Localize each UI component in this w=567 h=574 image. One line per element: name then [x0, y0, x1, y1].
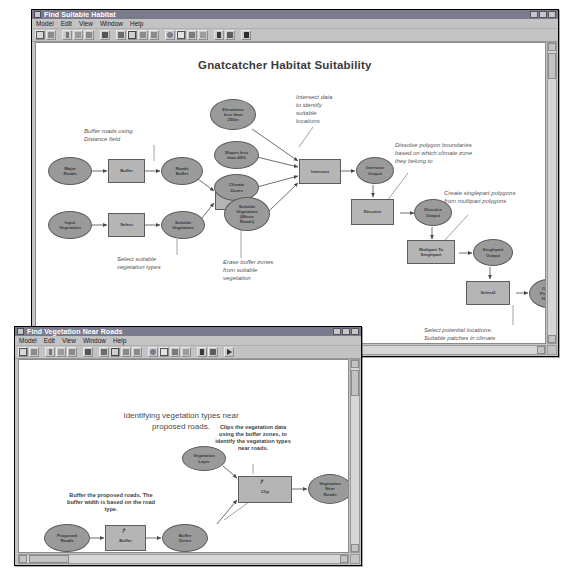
select-icon[interactable]: [214, 30, 224, 40]
node-multipart-to-singlepart-tool[interactable]: Multipart To Singlepart: [407, 240, 455, 264]
horizontal-scroll-thumb[interactable]: [29, 555, 69, 563]
node-elevations-less-than-250m[interactable]: Elevations less than 250m: [210, 99, 256, 130]
delete-icon[interactable]: [83, 347, 93, 357]
window-find-vegetation-near-roads[interactable]: Find Vegetation Near Roads Model Edit Vi…: [14, 326, 362, 566]
node-dissolve-tool[interactable]: Dissolve: [351, 199, 394, 225]
menu-item-window[interactable]: Window: [83, 336, 106, 346]
scroll-down-arrow-icon[interactable]: [351, 544, 359, 552]
zoom-whole-icon[interactable]: [187, 30, 197, 40]
save-icon[interactable]: [18, 347, 28, 357]
node-suitable-vegetation[interactable]: Suitable Vegetation: [161, 211, 205, 239]
menu-item-view[interactable]: View: [62, 336, 76, 346]
window-controls[interactable]: [530, 11, 556, 18]
vertical-scroll-thumb[interactable]: [548, 53, 556, 79]
model-canvas-vegetation[interactable]: Identifying vegetation types near propos…: [18, 359, 349, 553]
vertical-scroll-thumb[interactable]: [351, 370, 359, 396]
window-controls[interactable]: [333, 328, 359, 335]
pan-icon[interactable]: [176, 30, 186, 40]
scroll-up-arrow-icon[interactable]: [351, 360, 359, 368]
scroll-right-arrow-icon[interactable]: [537, 346, 545, 354]
window-menu-icon[interactable]: [17, 328, 24, 335]
menu-item-model[interactable]: Model: [19, 336, 37, 346]
node-singlepart-output[interactable]: Singlepart Output: [473, 239, 513, 266]
toolbar[interactable]: [15, 346, 361, 359]
menu-item-view[interactable]: View: [79, 19, 93, 29]
node-select-tool[interactable]: Select: [108, 213, 145, 237]
zoom-in-icon[interactable]: [148, 347, 158, 357]
copy-icon[interactable]: [56, 347, 66, 357]
maximize-button[interactable]: [342, 328, 350, 335]
node-buffer-tool[interactable]: Buffer: [108, 159, 145, 183]
paste-icon[interactable]: [84, 30, 94, 40]
fixed-zoom-out-icon[interactable]: [149, 30, 159, 40]
print-icon[interactable]: [29, 347, 39, 357]
full-extent-icon[interactable]: [110, 347, 120, 357]
maximize-button[interactable]: [539, 11, 547, 18]
connect-icon[interactable]: [208, 347, 218, 357]
run-icon[interactable]: [224, 347, 234, 357]
vertical-scrollbar[interactable]: [547, 42, 557, 344]
vertical-scrollbar[interactable]: [350, 359, 360, 553]
fixed-zoom-in-icon[interactable]: [121, 347, 131, 357]
close-button[interactable]: [351, 328, 359, 335]
zoom-selected-icon[interactable]: [198, 30, 208, 40]
menu-item-window[interactable]: Window: [100, 19, 123, 29]
run-icon[interactable]: [241, 30, 251, 40]
fixed-zoom-in-icon[interactable]: [138, 30, 148, 40]
node-input-vegetation[interactable]: Input Vegetation: [48, 211, 92, 239]
select-icon[interactable]: [197, 347, 207, 357]
node-suitable-vegetation-minus-roads[interactable]: Suitable Vegetation (Minus Roads): [224, 197, 270, 231]
full-extent-icon[interactable]: [127, 30, 137, 40]
cut-icon[interactable]: [62, 30, 72, 40]
scroll-up-arrow-icon[interactable]: [548, 43, 556, 51]
node-output-potential-habitat[interactable]: Output Potential Habitat: [529, 279, 546, 308]
minimize-button[interactable]: [333, 328, 341, 335]
menu-item-edit[interactable]: Edit: [61, 19, 72, 29]
node-vegetation-near-roads[interactable]: Vegetation Near Roads: [308, 474, 349, 504]
minimize-button[interactable]: [530, 11, 538, 18]
auto-layout-icon[interactable]: [99, 347, 109, 357]
menubar[interactable]: Model Edit View Window Help: [15, 336, 361, 346]
node-select2-tool[interactable]: Select2: [466, 281, 510, 305]
zoom-selected-icon[interactable]: [181, 347, 191, 357]
node-label: Buffer Zones: [179, 533, 192, 543]
cut-icon[interactable]: [45, 347, 55, 357]
menu-item-model[interactable]: Model: [36, 19, 54, 29]
node-roads-buffer[interactable]: Roads Buffer: [161, 157, 203, 185]
pan-icon[interactable]: [159, 347, 169, 357]
node-intersect-tool[interactable]: Intersect: [299, 159, 341, 184]
node-clip-tool[interactable]: Clip: [238, 476, 292, 503]
resize-grip[interactable]: [350, 554, 360, 564]
close-button[interactable]: [548, 11, 556, 18]
auto-layout-icon[interactable]: [116, 30, 126, 40]
save-icon[interactable]: [35, 30, 45, 40]
copy-icon[interactable]: [73, 30, 83, 40]
resize-grip[interactable]: [547, 345, 557, 355]
horizontal-scrollbar[interactable]: [18, 554, 349, 564]
scroll-right-arrow-icon[interactable]: [340, 555, 348, 563]
menubar[interactable]: Model Edit View Window Help: [32, 19, 558, 29]
connect-icon[interactable]: [225, 30, 235, 40]
model-canvas-habitat[interactable]: Gnatcatcher Habitat Suitability Major Ro…: [35, 42, 546, 344]
window-menu-icon[interactable]: [34, 11, 41, 18]
zoom-whole-icon[interactable]: [170, 347, 180, 357]
toolbar[interactable]: [32, 29, 558, 42]
toolbar-separator: [236, 30, 240, 40]
window-find-suitable-habitat[interactable]: Find Suitable Habitat Model Edit View Wi…: [31, 9, 559, 357]
delete-icon[interactable]: [100, 30, 110, 40]
node-label: Roads Buffer: [175, 166, 188, 176]
fixed-zoom-out-icon[interactable]: [132, 347, 142, 357]
zoom-in-icon[interactable]: [165, 30, 175, 40]
scroll-down-arrow-icon[interactable]: [548, 335, 556, 343]
scroll-left-arrow-icon[interactable]: [19, 555, 27, 563]
paste-icon[interactable]: [67, 347, 77, 357]
node-major-roads[interactable]: Major Roads: [48, 157, 92, 185]
print-icon[interactable]: [46, 30, 56, 40]
node-proposed-roads[interactable]: Proposed Roads: [44, 524, 90, 552]
menu-item-help[interactable]: Help: [113, 336, 126, 346]
menu-item-help[interactable]: Help: [130, 19, 143, 29]
menu-item-edit[interactable]: Edit: [44, 336, 55, 346]
node-buffer-zones[interactable]: Buffer Zones: [162, 524, 208, 552]
node-intersect-output[interactable]: Intersect Output: [356, 157, 394, 184]
node-slopes-less-than-40[interactable]: Slopes less than 40%: [214, 141, 259, 169]
